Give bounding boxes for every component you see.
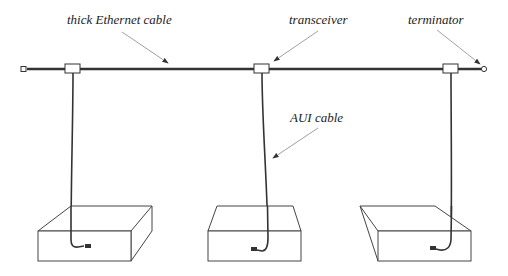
transceiver-1 bbox=[65, 64, 80, 73]
label-transceiver: transceiver bbox=[289, 12, 348, 27]
station-box-3 bbox=[360, 206, 471, 261]
transceiver-3 bbox=[443, 64, 458, 73]
ethernet-diagram: thick Ethernet cable transceiver termina… bbox=[0, 0, 508, 276]
station-box-2 bbox=[208, 206, 301, 261]
terminator-left bbox=[21, 67, 26, 72]
arrow-aui-cable bbox=[273, 128, 318, 158]
station-box-1 bbox=[38, 206, 152, 261]
label-terminator: terminator bbox=[408, 12, 465, 27]
arrow-terminator bbox=[437, 30, 480, 64]
terminator-right bbox=[481, 66, 486, 71]
transceiver-2 bbox=[254, 64, 269, 73]
arrow-cable bbox=[122, 32, 168, 63]
label-thick-ethernet-cable: thick Ethernet cable bbox=[67, 12, 172, 27]
arrow-transceiver bbox=[274, 31, 318, 61]
label-aui-cable: AUI cable bbox=[289, 110, 343, 125]
